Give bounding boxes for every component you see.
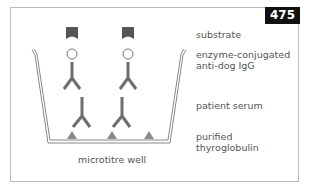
label-purified-line1: purified	[196, 131, 232, 142]
substrate-icons	[66, 27, 134, 39]
microtitre-well-shape	[32, 49, 186, 143]
enzyme-circle-icons	[67, 49, 133, 59]
label-substrate: substrate	[196, 29, 241, 40]
label-patient-serum: patient serum	[196, 100, 263, 111]
label-enzyme-line1: enzyme-conjugated	[196, 49, 290, 60]
patient-serum-antibody-icons	[73, 97, 130, 127]
elisa-diagram	[0, 0, 309, 188]
label-purified-line2: thyroglobulin	[196, 142, 259, 153]
thyroglobulin-antigen-icons	[67, 131, 154, 139]
label-enzyme-line2: anti-dog IgG	[196, 60, 255, 71]
figure-number-badge: 475	[265, 7, 300, 24]
label-microtitre-well: microtitre well	[78, 154, 146, 165]
enzyme-conjugated-antibody-icons	[64, 62, 136, 89]
